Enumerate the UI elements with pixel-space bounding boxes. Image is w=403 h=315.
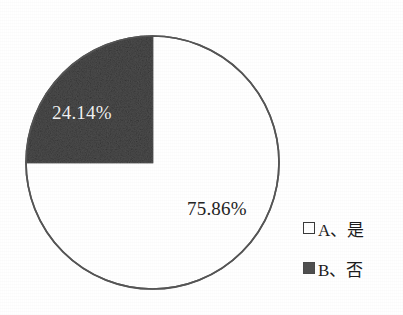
pie-chart-figure: 24.14% 75.86% A、是 B、否 — [0, 0, 403, 315]
pie-chart-graphic — [24, 34, 281, 291]
slice-b-value-label: 24.14% — [52, 102, 112, 124]
pie-svg — [24, 34, 281, 291]
legend-label-b: B、否 — [318, 256, 363, 281]
chart-legend: A、是 B、否 — [303, 216, 399, 296]
legend-item-a[interactable]: A、是 — [303, 216, 399, 240]
legend-item-b[interactable]: B、否 — [303, 256, 399, 280]
legend-swatch-b-icon — [303, 262, 315, 274]
legend-swatch-a-icon — [303, 222, 315, 234]
pie-slice-b[interactable] — [26, 36, 153, 163]
legend-label-a: A、是 — [318, 216, 364, 241]
slice-a-value-label: 75.86% — [187, 198, 247, 220]
